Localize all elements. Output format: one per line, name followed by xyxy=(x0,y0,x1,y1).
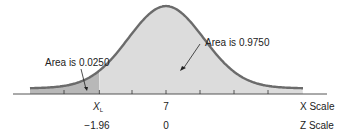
x-tick-label-xl: XL xyxy=(92,101,104,113)
x-tick-label-mean: 7 xyxy=(163,101,169,112)
x-scale-label: X Scale xyxy=(300,101,335,112)
z-scale-label: Z Scale xyxy=(300,120,334,131)
annotation-body: Area is 0.9750 xyxy=(205,37,270,48)
shaded-region-left-tail xyxy=(30,71,99,94)
shaded-region-body xyxy=(99,6,303,94)
z-tick-label-zero: 0 xyxy=(163,120,169,131)
annotation-left-tail: Area is 0.0250 xyxy=(45,57,110,68)
z-tick-label-neg196: −1.96 xyxy=(84,120,110,131)
normal-distribution-chart: Area is 0.0250 Area is 0.9750 XL 7 X Sca… xyxy=(0,0,345,137)
